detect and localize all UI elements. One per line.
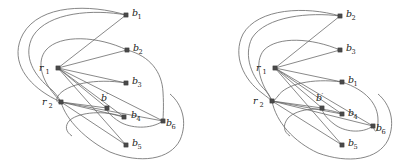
enclosing-curve [248, 15, 340, 101]
node-label-subscript-r1: 1 [262, 68, 266, 76]
enclosing-curve [284, 109, 342, 136]
graph-node-r1 [56, 66, 60, 70]
graph-edge [275, 68, 322, 108]
graph-edge [61, 102, 163, 121]
graph-edge [58, 15, 126, 68]
node-label-subscript-b4: 4 [354, 113, 358, 121]
node-label-r2: r [253, 95, 259, 106]
left-edges [58, 15, 163, 145]
graph-node-r1 [273, 66, 277, 70]
graph-node-b4 [122, 115, 126, 119]
graph-edge [58, 68, 107, 108]
enclosing-curve [272, 81, 342, 102]
node-label-subscript-b3: 3 [352, 48, 356, 56]
node-label-subscript-b5: 5 [138, 143, 142, 151]
graph-node-b1 [340, 80, 344, 84]
graph-node-b1 [124, 13, 128, 17]
graph-node-b3 [338, 48, 342, 52]
graph-node-b2 [125, 48, 129, 52]
node-label-subscript-b1: 1 [354, 80, 358, 88]
node-label-r1: r [39, 62, 45, 73]
node-label-prime-bp: ′ [321, 92, 323, 100]
graph-node-b4 [340, 112, 344, 116]
left-enclosing-curves [18, 8, 184, 158]
graph-node-r2 [59, 100, 63, 104]
node-label-subscript-b4: 4 [137, 115, 141, 123]
node-label-prime-bp: ′ [106, 92, 108, 100]
graph-node-b2 [338, 14, 342, 18]
right-graph-panel: r1r2b2b3b1b′b4b5b6 [239, 8, 392, 159]
graph-node-b5 [340, 143, 344, 147]
graph-edge [275, 50, 340, 68]
graph-node-r2 [270, 99, 274, 103]
graph-edge [275, 16, 340, 68]
node-label-subscript-r1: 1 [45, 68, 49, 76]
enclosing-curve [29, 12, 126, 102]
node-label-subscript-b3: 3 [138, 81, 142, 89]
left-graph-panel: r1r2b1b2b3b′b4b5b6 [18, 7, 184, 159]
graph-edge [58, 50, 127, 68]
node-label-subscript-b2: 2 [139, 48, 143, 56]
graph-edge [58, 68, 163, 121]
graph-edge [275, 68, 373, 126]
graph-figure: r1r2b1b2b3b′b4b5b6 r1r2b2b3b1b′b4b5b6 [0, 0, 413, 167]
node-label-r1: r [256, 62, 262, 73]
graph-node-b6 [371, 124, 375, 128]
enclosing-curve [18, 8, 126, 102]
node-label-subscript-b6: 6 [382, 128, 386, 136]
node-label-subscript-r2: 2 [48, 102, 52, 110]
node-label-subscript-r2: 2 [259, 101, 263, 109]
node-label-subscript-b6: 6 [172, 123, 176, 131]
graph-node-b6 [161, 119, 165, 123]
graph-node-bp [105, 106, 109, 110]
right-enclosing-curves [239, 10, 392, 159]
graph-node-b3 [124, 81, 128, 85]
node-label-subscript-b1: 1 [138, 13, 142, 21]
node-label-subscript-b2: 2 [352, 14, 356, 22]
node-label-r2: r [42, 96, 48, 107]
enclosing-curve [259, 40, 340, 101]
graph-node-bp [320, 106, 324, 110]
graph-node-b5 [124, 143, 128, 147]
node-label-subscript-b5: 5 [354, 143, 358, 151]
